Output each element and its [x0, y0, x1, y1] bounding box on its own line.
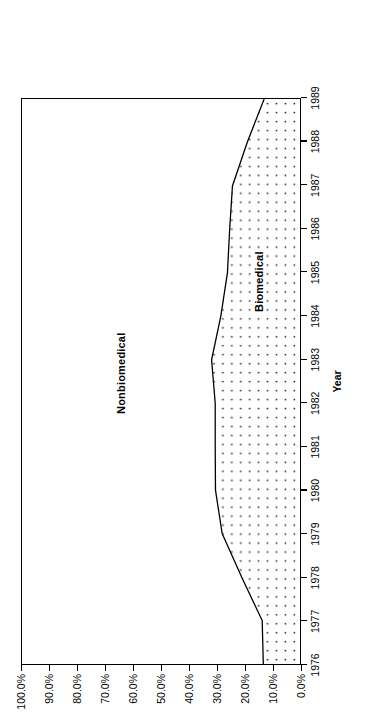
x-axis-tick — [301, 315, 307, 316]
x-axis-tick-label: 1980 — [309, 479, 321, 502]
y-axis-tick-label: 70.0% — [99, 674, 111, 704]
y-axis-tick-label: 90.0% — [43, 674, 55, 704]
y-axis-tick-label: 20.0% — [239, 674, 251, 704]
x-axis-tick-label: 1977 — [309, 610, 321, 633]
y-axis-tick — [273, 665, 274, 671]
x-axis-tick — [301, 489, 307, 490]
plot-area: Nonbiomedical Biomedical — [21, 98, 301, 665]
x-axis-ticks — [301, 98, 308, 665]
x-axis-tick-label: 1981 — [309, 435, 321, 458]
x-axis-tick-label: 1976 — [309, 653, 321, 676]
x-axis-tick — [301, 359, 307, 360]
x-axis-tick — [301, 402, 307, 403]
y-axis-tick — [189, 665, 190, 671]
x-axis-tick-label: 1984 — [309, 304, 321, 327]
y-axis-tick-label: 0.0% — [295, 674, 307, 698]
x-axis-tick — [301, 620, 307, 621]
x-axis-tick-label: 1979 — [309, 522, 321, 545]
y-axis-tick-label: 40.0% — [183, 674, 195, 704]
y-axis-tick-labels: 0.0%10.0%20.0%30.0%40.0%50.0%60.0%70.0%8… — [21, 674, 301, 698]
series-label-nonbiomedical: Nonbiomedical — [115, 333, 127, 414]
y-axis-tick — [161, 665, 162, 671]
series-label-biomedical: Biomedical — [253, 251, 265, 312]
x-axis-tick-label: 1982 — [309, 392, 321, 415]
y-axis-tick — [105, 665, 106, 671]
x-axis-tick-label: 1978 — [309, 566, 321, 589]
y-axis-tick — [301, 665, 302, 671]
y-axis-tick — [21, 665, 22, 671]
y-axis-ticks — [21, 665, 301, 672]
y-axis-tick-label: 30.0% — [211, 674, 223, 704]
y-axis-tick-label: 60.0% — [127, 674, 139, 704]
x-axis-tick-label: 1987 — [309, 174, 321, 197]
x-axis-tick-label: 1989 — [309, 86, 321, 109]
x-axis-tick — [301, 228, 307, 229]
x-axis-tick — [301, 140, 307, 141]
y-axis-tick-label: 80.0% — [71, 674, 83, 704]
y-axis-tick-label: 10.0% — [267, 674, 279, 704]
x-axis-tick — [301, 446, 307, 447]
y-axis-tick — [49, 665, 50, 671]
x-axis-tick-label: 1986 — [309, 217, 321, 240]
y-axis-tick — [245, 665, 246, 671]
y-axis-tick — [133, 665, 134, 671]
x-axis-tick-label: 1988 — [309, 130, 321, 153]
x-axis-tick — [301, 533, 307, 534]
x-axis-title: Year — [331, 98, 343, 665]
x-axis-tick-label: 1983 — [309, 348, 321, 371]
x-axis-tick-label: 1985 — [309, 261, 321, 284]
y-axis-tick-label: 100.0% — [15, 674, 27, 710]
x-axis-tick — [301, 97, 307, 98]
x-axis-tick-labels: 1976197719781979198019811982198319841985… — [309, 98, 327, 665]
y-axis-tick-label: 50.0% — [155, 674, 167, 704]
y-axis-tick — [217, 665, 218, 671]
series-area-svg — [22, 99, 300, 664]
x-axis-tick — [301, 184, 307, 185]
x-axis-tick — [301, 577, 307, 578]
y-axis-tick — [77, 665, 78, 671]
x-axis-tick — [301, 271, 307, 272]
